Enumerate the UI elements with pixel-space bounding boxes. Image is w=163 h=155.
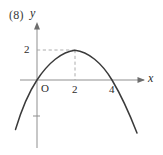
x-axis-label: x bbox=[148, 72, 153, 84]
figure-container: (8) y x O 2 4 2 bbox=[0, 0, 163, 155]
y-tick-label-2: 2 bbox=[24, 44, 30, 55]
x-axis-arrowhead bbox=[138, 77, 146, 83]
x-tick-label-4: 4 bbox=[109, 84, 115, 95]
item-number-label: (8) bbox=[9, 9, 24, 21]
y-axis-label: y bbox=[30, 7, 35, 19]
origin-label: O bbox=[41, 83, 49, 94]
y-axis-arrowhead bbox=[34, 22, 40, 30]
parabola-figure-svg bbox=[0, 0, 163, 155]
x-tick-label-2: 2 bbox=[72, 84, 78, 95]
